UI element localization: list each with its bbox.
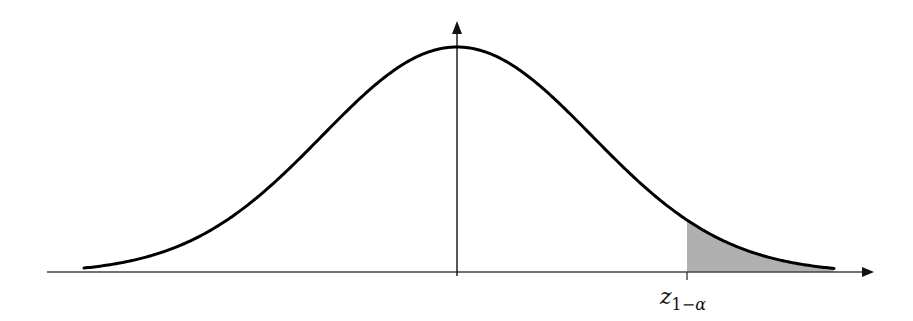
- normal-distribution-diagram: [0, 0, 913, 321]
- y-axis-arrow-icon: [452, 21, 462, 34]
- label-subscript: 1−: [672, 295, 696, 314]
- label-z: z: [660, 284, 672, 309]
- label-alpha: α: [695, 295, 706, 314]
- shaded-tail-region: [687, 220, 834, 272]
- density-curve: [84, 47, 834, 268]
- x-axis-arrow-icon: [862, 267, 874, 277]
- critical-value-label: z1−α: [660, 286, 706, 313]
